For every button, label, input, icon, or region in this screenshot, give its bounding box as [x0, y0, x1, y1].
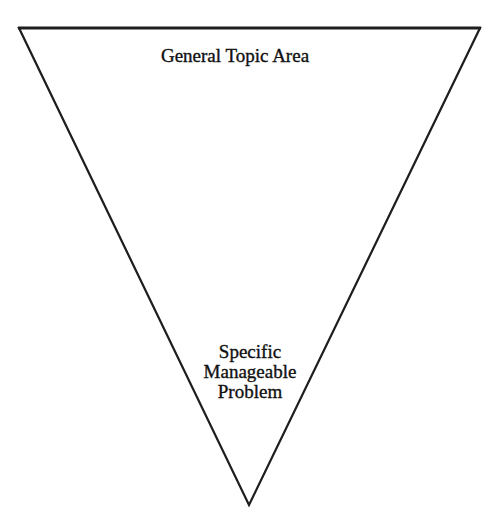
specific-problem-line-3: Problem — [190, 382, 310, 402]
specific-problem-line-2: Manageable — [190, 362, 310, 382]
specific-problem-label: Specific Manageable Problem — [190, 342, 310, 402]
specific-problem-line-1: Specific — [190, 342, 310, 362]
inverted-triangle — [19, 28, 480, 505]
general-topic-area-label: General Topic Area — [135, 46, 335, 66]
funnel-diagram — [0, 0, 493, 510]
